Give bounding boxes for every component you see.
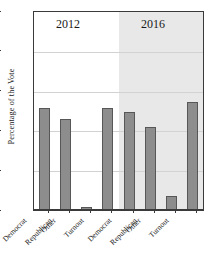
panel-title-2016: 2016	[133, 17, 173, 32]
x-tick-mark-2012-other	[90, 210, 91, 213]
y-tick-mark-60	[0, 90, 1, 91]
panel-title-2012: 2012	[48, 17, 88, 32]
x-tick-mark-2016-other	[175, 210, 176, 213]
y-tick-mark-20	[0, 170, 1, 171]
x-tick-mark-2012-republican	[69, 210, 70, 213]
bar-chart-figure: Percentage of the Vote 0 20 40 60 80 100…	[0, 0, 210, 276]
y-tick-mark-40	[0, 130, 1, 131]
y-tick-mark-100	[0, 11, 1, 12]
x-tick-mark-2016-republican	[154, 210, 155, 213]
x-tick-mark-2016-democrat	[133, 210, 134, 213]
x-tick-mark-2016-turnout	[196, 210, 197, 213]
x-tick-mark-2012-turnout	[111, 210, 112, 213]
y-tick-mark-0	[0, 210, 1, 211]
x-tick-mark-2012-democrat	[48, 210, 49, 213]
y-tick-mark-80	[0, 50, 1, 51]
